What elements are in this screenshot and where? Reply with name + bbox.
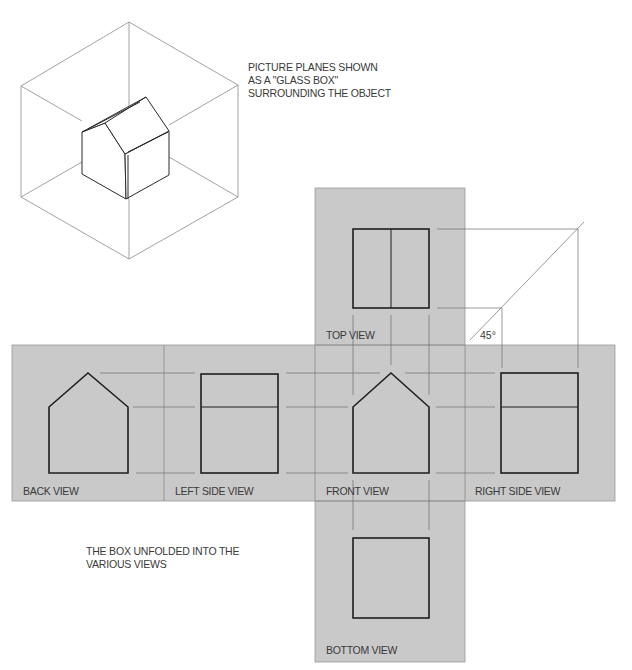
glass-box-edge — [169, 85, 238, 125]
unfolded-caption: THE BOX UNFOLDED INTO THE VARIOUS VIEWS — [86, 545, 239, 571]
horizontal-strip-panel — [12, 345, 615, 501]
left-side-view-label: LEFT SIDE VIEW — [175, 485, 253, 497]
unfolded-panels — [12, 188, 615, 662]
caption-line: VARIOUS VIEWS — [86, 558, 239, 571]
miter-angle-label: 45° — [480, 329, 496, 341]
caption-line: AS A "GLASS BOX" — [248, 74, 391, 87]
glass-box-edge — [21, 86, 82, 121]
glass-box-caption: PICTURE PLANES SHOWN AS A "GLASS BOX" SU… — [248, 61, 391, 100]
caption-line: SURROUNDING THE OBJECT — [248, 87, 391, 100]
house-isometric — [82, 97, 169, 199]
top-view-label: TOP VIEW — [326, 329, 375, 341]
glass-box-edge — [21, 162, 82, 197]
front-view-label: FRONT VIEW — [326, 485, 389, 497]
miter-line-45 — [470, 222, 584, 340]
glass-box-edge — [169, 157, 238, 197]
caption-line: THE BOX UNFOLDED INTO THE — [86, 545, 239, 558]
bottom-view-label: BOTTOM VIEW — [326, 644, 397, 656]
right-side-view-label: RIGHT SIDE VIEW — [475, 485, 560, 497]
back-view-label: BACK VIEW — [23, 485, 79, 497]
caption-line: PICTURE PLANES SHOWN — [248, 61, 391, 74]
